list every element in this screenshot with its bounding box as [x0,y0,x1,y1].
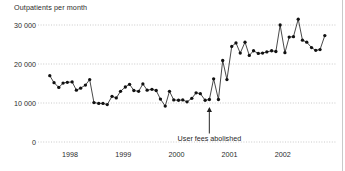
data-point-marker [137,90,140,93]
data-point-marker [208,98,211,101]
data-point-marker [57,86,60,89]
data-point-marker [243,41,246,44]
series-line [50,19,325,106]
data-point-marker [234,41,237,44]
data-point-marker [278,23,281,26]
series-markers [48,18,326,108]
data-point-marker [119,90,122,93]
data-point-marker [261,51,264,54]
data-point-marker [217,98,220,101]
data-point-marker [128,83,131,86]
data-point-marker [274,50,277,53]
data-point-marker [283,51,286,54]
data-point-marker [288,35,291,38]
data-point-marker [270,49,273,52]
data-point-marker [106,103,109,106]
data-point-marker [225,78,228,81]
data-point-marker [190,97,193,100]
data-point-marker [75,88,78,91]
data-point-marker [297,18,300,21]
data-point-marker [132,89,135,92]
data-point-marker [314,49,317,52]
data-point-marker [97,102,100,105]
plot-area [0,0,345,171]
data-point-marker [172,98,175,101]
data-point-marker [292,35,295,38]
data-point-marker [265,50,268,53]
annotation-arrow-head [207,107,212,112]
data-point-marker [323,34,326,37]
data-point-marker [88,78,91,81]
gridlines [38,25,337,142]
data-point-marker [248,54,251,57]
data-point-marker [168,90,171,93]
data-point-marker [164,104,167,107]
data-point-marker [318,48,321,51]
data-point-marker [203,99,206,102]
data-point-marker [84,83,87,86]
data-point-marker [115,96,118,99]
data-point-marker [101,102,104,105]
data-point-marker [92,101,95,104]
data-point-marker [155,89,158,92]
data-point-marker [66,81,69,84]
data-point-marker [48,74,51,77]
data-point-marker [185,100,188,103]
data-point-marker [239,51,242,54]
data-point-marker [61,81,64,84]
data-point-marker [310,46,313,49]
data-point-marker [230,45,233,48]
data-point-marker [212,77,215,80]
data-point-marker [141,82,144,85]
data-point-marker [221,59,224,62]
data-point-marker [305,41,308,44]
data-point-marker [301,39,304,42]
data-point-marker [52,81,55,84]
data-point-marker [70,80,73,83]
data-point-marker [159,97,162,100]
data-point-marker [177,99,180,102]
annotation-label: User fees abolished [178,134,242,143]
data-point-marker [150,88,153,91]
chart-figure: Outpatients per month 010 00020 00030 00… [0,0,345,171]
annotation-arrow-icon [207,107,212,134]
data-point-marker [79,87,82,90]
data-point-marker [252,49,255,52]
right-edge-rule [342,0,343,171]
data-point-marker [181,98,184,101]
data-point-marker [199,92,202,95]
data-point-marker [194,91,197,94]
data-point-marker [257,52,260,55]
data-point-marker [145,88,148,91]
data-point-marker [124,85,127,88]
data-point-marker [110,95,113,98]
